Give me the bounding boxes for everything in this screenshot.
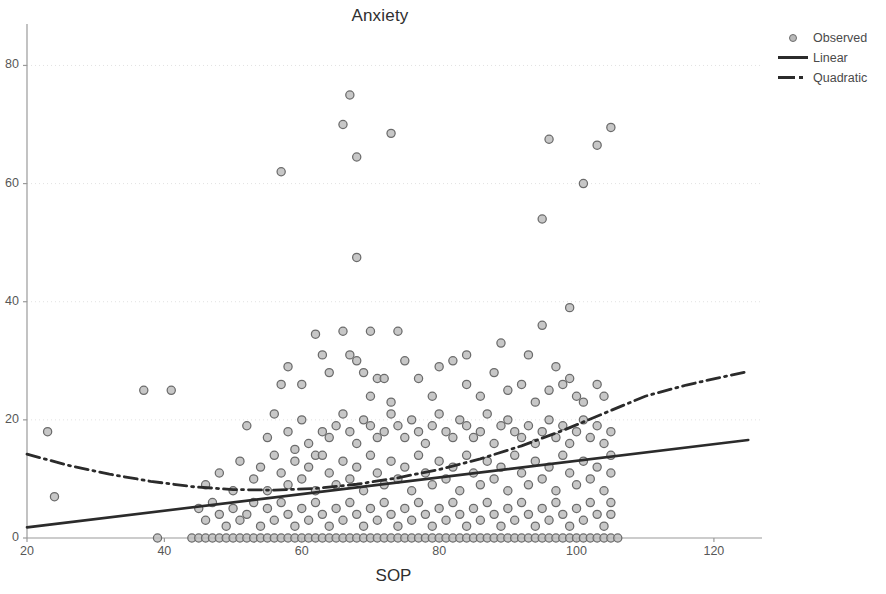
y-tick-label: 20	[0, 412, 19, 426]
x-tick-label: 80	[419, 544, 459, 558]
legend-label-observed: Observed	[813, 31, 867, 45]
legend-label-linear: Linear	[813, 51, 848, 65]
chart-figure: Anxiety 02040608020406080100120 SOP Obse…	[0, 0, 886, 594]
x-tick-label: 120	[694, 544, 734, 558]
x-tick-label: 60	[282, 544, 322, 558]
legend-item-quadratic: Quadratic	[778, 68, 886, 88]
x-tick-label: 40	[144, 544, 184, 558]
linear-line-icon	[778, 51, 808, 65]
x-axis-title: SOP	[27, 566, 760, 586]
y-tick-label: 80	[0, 57, 19, 71]
x-tick-label: 100	[557, 544, 597, 558]
observed-points-layer	[44, 91, 622, 542]
legend-item-linear: Linear	[778, 48, 886, 68]
chart-legend: Observed Linear Quadratic	[778, 28, 886, 88]
legend-item-observed: Observed	[778, 28, 886, 48]
quadratic-line-icon	[778, 71, 808, 85]
y-tick-label: 40	[0, 294, 19, 308]
x-tick-label: 20	[7, 544, 47, 558]
y-tick-label: 0	[0, 530, 19, 544]
observed-marker-icon	[778, 31, 808, 45]
gridlines	[27, 65, 762, 419]
scatter-plot-canvas	[0, 0, 886, 594]
legend-label-quadratic: Quadratic	[813, 71, 867, 85]
y-tick-label: 60	[0, 176, 19, 190]
